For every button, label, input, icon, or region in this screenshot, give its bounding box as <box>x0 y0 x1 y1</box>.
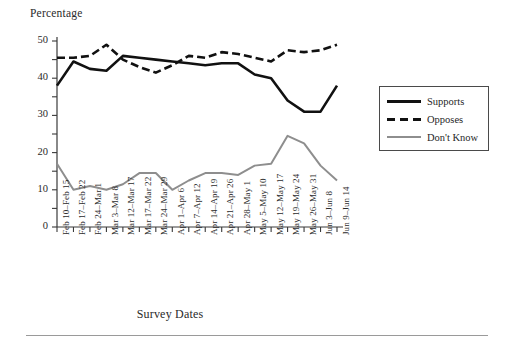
series-line-supports <box>57 56 337 112</box>
legend-swatch-opposes-icon <box>387 118 421 121</box>
y-tick-label: 20 <box>26 146 48 157</box>
y-tick-label: 40 <box>26 71 48 82</box>
legend-label-supports: Supports <box>427 96 464 107</box>
x-tick-label: Apr 21–Apr 26 <box>225 179 235 235</box>
chart-figure: Percentage Survey Dates 01020304050 Feb … <box>0 0 506 348</box>
y-tick-label: 0 <box>26 220 48 231</box>
x-tick-label: Apr 7–Apr 12 <box>192 183 202 235</box>
legend-swatch-dont-know-icon <box>387 136 421 139</box>
x-tick-label: Mar 12–Mar 17 <box>126 177 136 235</box>
legend-item-supports: Supports <box>387 94 464 108</box>
y-tick-label: 30 <box>26 108 48 119</box>
x-tick-label: Feb 17–Feb 22 <box>77 180 87 235</box>
chart-legend: Supports Opposes Don't Know <box>379 86 489 151</box>
legend-label-opposes: Opposes <box>427 114 463 125</box>
y-tick-label: 50 <box>26 34 48 45</box>
x-tick-label: Mar 24–Mar 29 <box>159 177 169 235</box>
x-tick-label: Apr 14–Apr 19 <box>209 179 219 235</box>
x-tick-label: Mar 17–Mar 22 <box>143 177 153 235</box>
series-line-opposes <box>57 45 337 73</box>
x-tick-label: Jun 9–Jun 14 <box>341 186 351 235</box>
x-tick-label: Jun 3–Jun 8 <box>324 191 334 235</box>
footer-divider <box>26 335 488 336</box>
x-tick-label: Apr 1–Apr 6 <box>176 188 186 235</box>
x-tick-label: May 12–May 17 <box>275 174 285 235</box>
x-tick-label: May 19–May 24 <box>291 174 301 235</box>
x-tick-label: May 5–May 10 <box>258 178 268 235</box>
x-tick-label: May 26–May 31 <box>308 174 318 235</box>
chart-plot-area <box>0 0 506 348</box>
legend-label-dont-know: Don't Know <box>427 132 478 143</box>
x-tick-label: Feb 10–Feb 15 <box>61 180 71 235</box>
x-tick-label: Feb 24–Mar 1 <box>93 183 103 235</box>
legend-item-opposes: Opposes <box>387 112 463 126</box>
x-tick-label: Mar 3–Mar 8 <box>110 186 120 235</box>
legend-swatch-supports-icon <box>387 100 421 103</box>
y-tick-label: 10 <box>26 183 48 194</box>
legend-item-dont-know: Don't Know <box>387 130 478 144</box>
x-tick-label: Apr 28–May 1 <box>242 181 252 235</box>
